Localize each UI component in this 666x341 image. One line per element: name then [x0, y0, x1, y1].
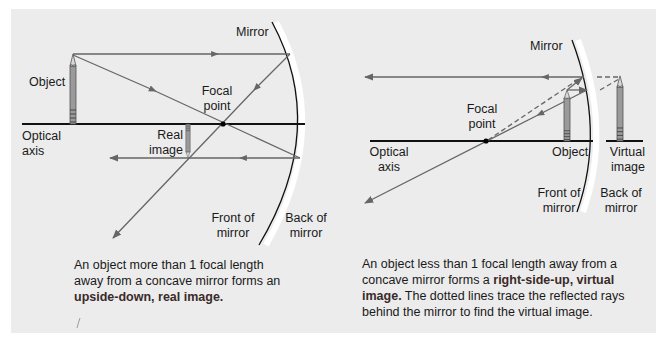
right-focal-point-label: Focal point: [462, 102, 502, 132]
left-focal-point-label: Focal point: [196, 84, 238, 114]
real-image-label: Real image: [143, 128, 183, 158]
left-optical-axis-label: Optical axis: [22, 129, 61, 159]
right-object-pencil: [564, 90, 570, 141]
ray-object-to-mirror-diag: [567, 78, 582, 90]
ray-reflected-through-focus: [113, 54, 290, 238]
left-object-pencil: [70, 54, 76, 124]
right-front-of-mirror-label: Front of mirror: [534, 186, 584, 216]
right-optical-axis-label: Optical axis: [366, 145, 412, 175]
right-focal-point-dot: [483, 138, 488, 143]
stray-mark: [77, 318, 80, 328]
dashed-trace-diag: [600, 79, 619, 90]
left-back-of-mirror-label: Back of mirror: [283, 211, 329, 241]
real-image-pencil: [186, 124, 190, 158]
right-mirror-label: Mirror: [530, 39, 563, 54]
left-focal-point-dot: [220, 121, 225, 126]
left-caption: An object more than 1 focal length away …: [74, 257, 314, 305]
left-object-label: Object: [29, 75, 65, 90]
right-caption: An object less than 1 focal length away …: [362, 256, 662, 320]
virtual-image-pencil: [617, 76, 623, 141]
left-front-of-mirror-label: Front of mirror: [208, 211, 258, 241]
left-mirror-label: Mirror: [236, 25, 269, 40]
virtual-image-label: Virtual image: [605, 145, 645, 175]
right-back-of-mirror-label: Back of mirror: [598, 186, 644, 216]
right-object-label: Object: [552, 145, 588, 160]
